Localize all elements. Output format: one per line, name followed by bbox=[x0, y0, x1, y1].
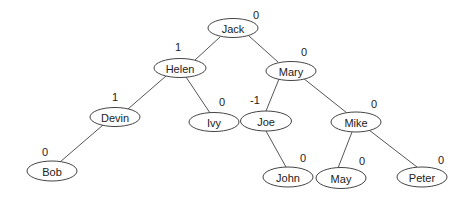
node-label: John bbox=[276, 172, 300, 184]
nodes-layer: Jack 0 Helen 1 Mary 0 Devin 1 Ivy 0 Joe … bbox=[27, 9, 447, 189]
node-label: May bbox=[331, 173, 352, 185]
balance-factor: 0 bbox=[359, 155, 365, 167]
balance-factor: 1 bbox=[112, 91, 118, 103]
tree-node-mary: Mary 0 bbox=[266, 46, 316, 81]
node-label: Mary bbox=[279, 66, 304, 78]
balance-factor: 1 bbox=[175, 41, 181, 53]
balance-factor: -1 bbox=[250, 94, 260, 106]
node-label: Bob bbox=[42, 166, 62, 178]
edge-devin-bob bbox=[60, 125, 103, 162]
tree-node-jack: Jack 0 bbox=[208, 9, 259, 38]
balance-factor: 0 bbox=[219, 96, 225, 108]
tree-node-joe: Joe -1 bbox=[241, 94, 292, 131]
node-label: Joe bbox=[257, 116, 275, 128]
balance-factor: 0 bbox=[42, 146, 48, 158]
tree-node-mike: Mike 0 bbox=[331, 98, 381, 132]
edge-jack-helen bbox=[195, 37, 220, 60]
tree-node-ivy: Ivy 0 bbox=[189, 96, 239, 132]
node-label: Ivy bbox=[207, 117, 222, 129]
balance-factor: 0 bbox=[301, 46, 307, 58]
balance-factor: 0 bbox=[300, 152, 306, 164]
node-label: Devin bbox=[101, 112, 129, 124]
node-label: Peter bbox=[409, 172, 436, 184]
tree-node-bob: Bob 0 bbox=[27, 146, 77, 181]
tree-node-devin: Devin 1 bbox=[90, 91, 140, 127]
edge-helen-ivy bbox=[186, 77, 210, 113]
edge-joe-john bbox=[266, 131, 286, 167]
edge-jack-mary bbox=[249, 36, 278, 62]
edge-mike-may bbox=[338, 132, 352, 168]
node-label: Mike bbox=[344, 117, 367, 129]
avl-tree-diagram: Jack 0 Helen 1 Mary 0 Devin 1 Ivy 0 Joe … bbox=[0, 0, 472, 199]
edge-mary-joe bbox=[266, 79, 279, 111]
tree-node-helen: Helen 1 bbox=[154, 41, 206, 78]
tree-node-john: John 0 bbox=[263, 152, 313, 187]
balance-factor: 0 bbox=[438, 154, 444, 166]
tree-node-peter: Peter 0 bbox=[397, 154, 447, 187]
balance-factor: 0 bbox=[371, 98, 377, 110]
node-label: Jack bbox=[222, 23, 245, 35]
edge-mary-mike bbox=[303, 78, 347, 113]
edge-helen-devin bbox=[128, 76, 166, 109]
node-label: Helen bbox=[166, 63, 195, 75]
edge-mike-peter bbox=[369, 130, 417, 167]
balance-factor: 0 bbox=[253, 9, 259, 21]
